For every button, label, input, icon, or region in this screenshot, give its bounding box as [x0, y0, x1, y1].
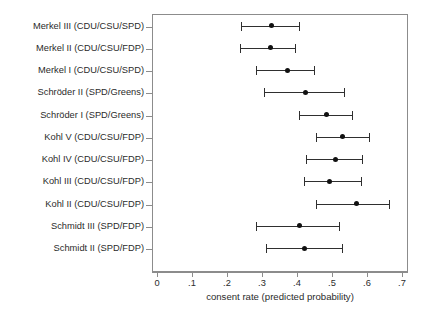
- x-tick-label: .4: [285, 278, 309, 288]
- data-point-row: [0, 21, 422, 33]
- data-point-row: [0, 110, 422, 122]
- data-point-marker: [302, 246, 307, 251]
- x-tick: [262, 272, 263, 277]
- data-point-row: [0, 43, 422, 55]
- confidence-interval-cap-low: [266, 244, 267, 253]
- data-point-marker: [297, 223, 302, 228]
- data-point-row: [0, 243, 422, 255]
- confidence-interval-line: [316, 204, 389, 205]
- confidence-interval-cap-low: [299, 111, 300, 120]
- x-tick: [367, 272, 368, 277]
- data-point-row: [0, 87, 422, 99]
- confidence-interval-cap-high: [314, 66, 315, 75]
- consent-rate-chart: Merkel III (CDU/CSU/SPD)Merkel II (CDU/C…: [0, 0, 422, 319]
- confidence-interval-cap-high: [342, 244, 343, 253]
- confidence-interval-cap-low: [316, 133, 317, 142]
- confidence-interval-cap-high: [361, 177, 362, 186]
- confidence-interval-cap-low: [241, 22, 242, 31]
- confidence-interval-cap-high: [299, 22, 300, 31]
- x-axis-title: consent rate (predicted probability): [152, 291, 408, 302]
- x-tick: [192, 272, 193, 277]
- data-point-row: [0, 199, 422, 211]
- x-tick: [297, 272, 298, 277]
- confidence-interval-cap-low: [264, 88, 265, 97]
- confidence-interval-cap-high: [362, 155, 363, 164]
- confidence-interval-cap-high: [339, 222, 340, 231]
- x-tick-label: .5: [320, 278, 344, 288]
- data-point-marker: [303, 90, 308, 95]
- x-tick-label: .3: [250, 278, 274, 288]
- x-tick: [227, 272, 228, 277]
- x-tick-label: 0: [145, 278, 169, 288]
- x-tick-label: .2: [215, 278, 239, 288]
- data-point-row: [0, 221, 422, 233]
- data-point-marker: [327, 179, 332, 184]
- x-tick: [402, 272, 403, 277]
- x-tick: [332, 272, 333, 277]
- confidence-interval-cap-low: [304, 177, 305, 186]
- confidence-interval-cap-low: [256, 66, 257, 75]
- data-point-marker: [285, 68, 290, 73]
- data-point-marker: [269, 23, 274, 28]
- confidence-interval-cap-low: [240, 44, 241, 53]
- data-point-row: [0, 132, 422, 144]
- x-tick-label: .6: [355, 278, 379, 288]
- data-point-marker: [333, 157, 338, 162]
- x-tick-label: .7: [390, 278, 414, 288]
- confidence-interval-cap-high: [369, 133, 370, 142]
- data-point-marker: [340, 134, 345, 139]
- confidence-interval-cap-low: [256, 222, 257, 231]
- data-point-marker: [268, 45, 273, 50]
- confidence-interval-cap-high: [352, 111, 353, 120]
- confidence-interval-cap-high: [295, 44, 296, 53]
- confidence-interval-cap-low: [316, 200, 317, 209]
- confidence-interval-line: [304, 181, 361, 182]
- data-point-marker: [324, 112, 329, 117]
- confidence-interval-cap-high: [344, 88, 345, 97]
- data-point-row: [0, 154, 422, 166]
- data-point-marker: [354, 201, 359, 206]
- data-point-row: [0, 65, 422, 77]
- x-axis-line: [152, 272, 408, 273]
- data-point-row: [0, 176, 422, 188]
- x-tick: [157, 272, 158, 277]
- confidence-interval-cap-high: [389, 200, 390, 209]
- x-tick-label: .1: [180, 278, 204, 288]
- confidence-interval-cap-low: [306, 155, 307, 164]
